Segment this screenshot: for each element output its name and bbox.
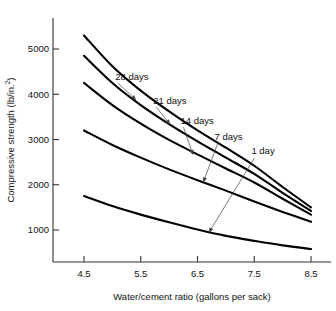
chart-figure: 10002000300040005000 4.55.56.57.58.5 28 …	[0, 0, 336, 311]
x-axis-title: Water/cement ratio (gallons per sack)	[113, 291, 271, 302]
series-curve	[84, 196, 311, 249]
x-tick-label: 6.5	[191, 268, 204, 279]
series-annotation-label: 1 day	[251, 145, 274, 156]
x-tick-label: 7.5	[248, 268, 261, 279]
y-tick-label: 3000	[28, 134, 49, 145]
annotation-leader-line	[210, 158, 255, 232]
y-axis-title-main: Compressive strength (lb/in.	[5, 84, 16, 202]
svg-text:Compressive strength (lb/in.2): Compressive strength (lb/in.2)	[4, 77, 16, 202]
y-tick-label: 2000	[28, 179, 49, 190]
x-tick-group: 4.55.56.57.58.5	[77, 256, 317, 279]
x-tick-label: 5.5	[134, 268, 147, 279]
series-annotation-label: 21 days	[153, 95, 187, 106]
series-annotation-label: 7 days	[215, 131, 243, 142]
annotation-group: 28 days21 days14 days7 days1 day	[115, 71, 275, 233]
y-axis-title: Compressive strength (lb/in.2)	[4, 77, 16, 202]
curve-group	[84, 35, 311, 249]
series-annotation-label: 14 days	[180, 115, 214, 126]
y-tick-label: 1000	[28, 224, 49, 235]
axes	[53, 18, 331, 262]
y-tick-label: 4000	[28, 89, 49, 100]
series-curve	[84, 83, 311, 215]
compressive-strength-line-chart: 10002000300040005000 4.55.56.57.58.5 28 …	[0, 0, 336, 311]
x-tick-label: 8.5	[304, 268, 317, 279]
series-annotation-label: 28 days	[115, 71, 149, 82]
annotation-arrowhead	[203, 177, 207, 182]
y-tick-label: 5000	[28, 43, 49, 54]
y-axis-title-tail: )	[5, 77, 16, 80]
y-tick-group: 10002000300040005000	[28, 43, 59, 235]
x-tick-label: 4.5	[77, 268, 90, 279]
